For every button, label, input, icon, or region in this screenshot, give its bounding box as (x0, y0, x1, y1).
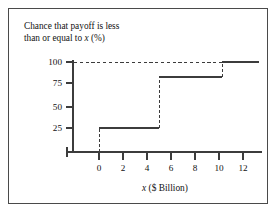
y-axis-ticks (66, 62, 73, 157)
cdf-step-jumps (99, 62, 222, 152)
cdf-step-levels (99, 62, 259, 128)
figure-container: Chance that payoff is less than or equal… (0, 0, 280, 218)
y-tick-label-75: 75 (38, 78, 62, 88)
x-tick-label-12: 12 (238, 163, 247, 173)
x-tick-label-10: 10 (214, 163, 223, 173)
x-tick-label-4: 4 (145, 163, 150, 173)
x-tick-label-6: 6 (169, 163, 174, 173)
x-tick-label-0: 0 (97, 163, 102, 173)
x-tick-label-2: 2 (121, 163, 126, 173)
y-tick-label-50: 50 (38, 102, 62, 112)
x-tick-label-8: 8 (193, 163, 198, 173)
y-tick-label-100: 100 (38, 57, 62, 67)
x-axis-ticks (99, 152, 243, 160)
y-tick-label-25: 25 (38, 123, 62, 133)
x-axis-title: x ($ Billion) (142, 183, 188, 193)
x-axis-title-units: ($ Billion) (146, 183, 188, 193)
